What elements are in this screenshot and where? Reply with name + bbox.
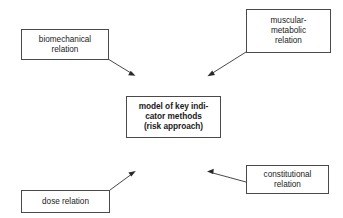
node-label: model of key indi- cator methods (risk a… xyxy=(127,102,220,131)
node-label: constitutional relation xyxy=(247,170,328,189)
arrow-dose-to-model xyxy=(110,171,136,190)
arrow-biomechanical-to-model xyxy=(108,59,136,76)
node-model-of-key-indicator-methods[interactable]: model of key indi- cator methods (risk a… xyxy=(126,96,221,138)
node-constitutional-relation[interactable]: constitutional relation xyxy=(246,165,329,194)
arrow-muscular-metabolic-to-model xyxy=(208,52,247,76)
diagram-canvas: biomechanical relation muscular- metabol… xyxy=(0,0,343,218)
node-label: dose relation xyxy=(22,197,109,207)
node-label: muscular- metabolic relation xyxy=(247,16,330,45)
node-muscular-metabolic-relation[interactable]: muscular- metabolic relation xyxy=(246,9,331,53)
arrow-constitutional-to-model xyxy=(207,169,246,182)
node-biomechanical-relation[interactable]: biomechanical relation xyxy=(21,29,109,60)
node-label: biomechanical relation xyxy=(22,35,108,54)
node-dose-relation[interactable]: dose relation xyxy=(21,190,110,213)
